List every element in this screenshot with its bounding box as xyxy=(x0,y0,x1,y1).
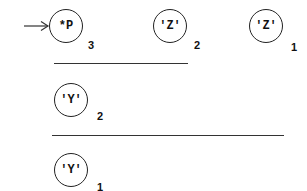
node-y-2: 'Y' xyxy=(54,83,88,117)
node-index: 1 xyxy=(291,42,297,53)
node-label: 'Y' xyxy=(60,163,82,177)
node-z-2: 'Z' xyxy=(153,9,187,43)
node-p: *P xyxy=(49,9,83,43)
node-z-1: 'Z' xyxy=(249,9,283,43)
node-index: 2 xyxy=(194,40,200,51)
stack-diagram: *P 3 'Z' 2 'Z' 1 'Y' 2 'Y' 1 xyxy=(0,0,307,191)
divider-line xyxy=(54,63,188,64)
arrow-right-icon xyxy=(24,20,50,32)
node-label: 'Z' xyxy=(159,19,181,33)
node-index: 1 xyxy=(97,182,103,191)
node-label: *P xyxy=(59,19,73,33)
node-index: 3 xyxy=(88,40,94,51)
node-label: 'Z' xyxy=(255,19,277,33)
divider-line xyxy=(52,135,284,136)
node-y-1: 'Y' xyxy=(54,153,88,187)
node-label: 'Y' xyxy=(60,93,82,107)
node-index: 2 xyxy=(97,111,103,122)
